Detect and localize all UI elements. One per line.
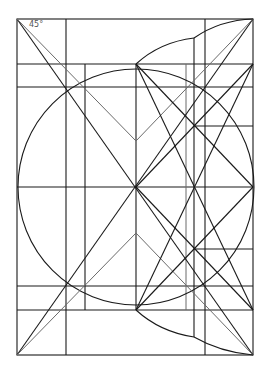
line-45-top [17,19,136,141]
angle-label: 45° [29,20,43,29]
bottom-arc-1 [136,310,194,337]
line-45-bottom [17,233,136,355]
geometric-diagram: 45° [0,0,273,380]
top-arc-1 [136,38,194,64]
